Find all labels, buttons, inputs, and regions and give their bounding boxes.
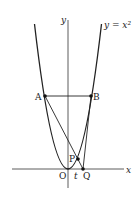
label-Q: Q: [83, 171, 90, 181]
point-A: [43, 94, 47, 98]
label-t: t: [74, 171, 78, 181]
label-P: P: [69, 154, 75, 164]
label-O: O: [59, 171, 66, 181]
parabola-diagram: y = x² y x A B P O t Q: [0, 0, 139, 198]
curve-label: y = x²: [103, 20, 131, 30]
label-B: B: [93, 92, 100, 102]
label-A: A: [34, 92, 42, 102]
point-P: [76, 157, 80, 161]
x-axis-label: x: [126, 165, 131, 175]
y-axis-label: y: [60, 15, 67, 25]
segment-BQ: [83, 96, 91, 169]
